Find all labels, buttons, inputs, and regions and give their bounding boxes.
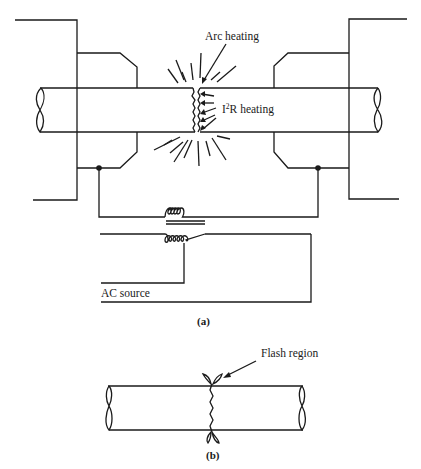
flash-region-arrow (223, 361, 256, 378)
caption-a: (a) (197, 315, 210, 328)
transformer-core (166, 221, 205, 224)
right-clamp-bottom (274, 132, 349, 168)
left-rod (36, 88, 195, 132)
flash-welding-diagram: Arc heating I2R heating (0, 0, 421, 469)
welded-rod (106, 386, 305, 430)
left-clamp-bottom (77, 132, 137, 168)
secondary-circuit (99, 168, 318, 217)
left-platen (15, 20, 77, 200)
weld-seam (210, 384, 213, 432)
i2r-heating-label: I2R heating (222, 102, 274, 116)
figure-a: Arc heating I2R heating (15, 19, 407, 328)
figure-b: Flash region (b) (106, 347, 318, 462)
arc-heating-label: Arc heating (205, 30, 259, 43)
caption-b: (b) (206, 449, 220, 462)
right-clamp-top (274, 53, 349, 88)
ac-source-label: AC source (101, 287, 150, 299)
left-clamp-top (77, 53, 137, 88)
i2r-heating-arrows (200, 91, 216, 131)
flash-region-label: Flash region (261, 347, 318, 360)
